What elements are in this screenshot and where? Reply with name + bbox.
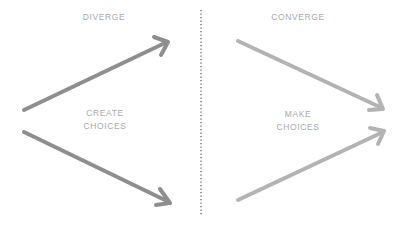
diagram-graphics — [0, 0, 408, 231]
arrow-diverge-up-icon — [24, 37, 168, 110]
converge-title: CONVERGE — [271, 11, 324, 24]
create-choices-label: CREATE CHOICES — [84, 107, 127, 132]
diverge-title: DIVERGE — [83, 11, 125, 24]
arrow-diverge-down-icon — [24, 132, 170, 205]
make-choices-line2: CHOICES — [277, 121, 320, 134]
arrow-converge-up-icon — [238, 128, 384, 200]
create-choices-line2: CHOICES — [84, 120, 127, 133]
make-choices-line1: MAKE — [277, 108, 320, 121]
arrow-converge-down-icon — [238, 41, 383, 110]
make-choices-label: MAKE CHOICES — [277, 108, 320, 133]
diverge-converge-diagram: DIVERGE CONVERGE CREATE CHOICES MAKE CHO… — [0, 0, 408, 231]
create-choices-line1: CREATE — [84, 107, 127, 120]
